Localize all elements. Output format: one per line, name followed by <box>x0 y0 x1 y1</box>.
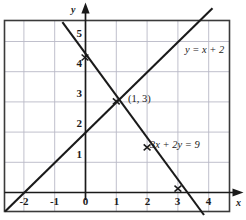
y-tick-label-3: 3 <box>70 88 82 99</box>
y-tick-label-2: 2 <box>70 118 82 129</box>
x-tick-label-4: 4 <box>193 196 224 207</box>
x-tick-label-3: 3 <box>162 196 193 207</box>
equation-label-line1: y = x + 2 <box>185 45 224 56</box>
x-tick-label-minus2: -2 <box>9 196 39 207</box>
graph-figure: y x 5 4 3 2 1 -2 -1 0 1 2 3 4 y = x + 2 … <box>0 0 246 220</box>
x-tick-label-1: 1 <box>101 196 132 207</box>
x-tick-label-0: 0 <box>70 196 101 207</box>
x-axis-label: x <box>236 198 241 208</box>
coordinate-plane-svg <box>0 0 246 220</box>
y-axis-label: y <box>71 5 75 15</box>
equation-label-line2: 3x + 2y = 9 <box>150 140 200 151</box>
x-axis-arrow <box>233 188 244 196</box>
x-tick-label-minus1: -1 <box>39 196 70 207</box>
x-tick-label-2: 2 <box>132 196 163 207</box>
intersection-point-label: (1, 3) <box>128 94 151 105</box>
y-tick-label-4: 4 <box>70 58 82 69</box>
y-axis-arrow <box>81 3 89 14</box>
y-tick-label-5: 5 <box>70 28 82 39</box>
y-tick-label-1: 1 <box>70 149 82 160</box>
